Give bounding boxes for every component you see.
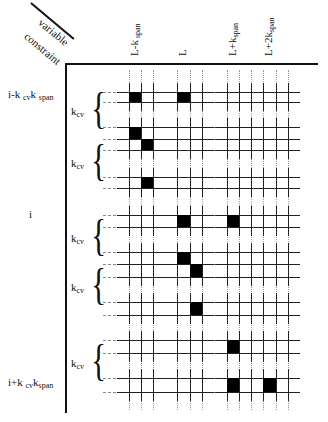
column-header-l-plus-2kspan: L+2kspan <box>262 17 276 56</box>
row-label-sub: span <box>39 381 54 390</box>
row-label-part: i+k <box>8 376 26 388</box>
filled-cell <box>263 378 276 392</box>
grid-line-vertical <box>239 206 240 236</box>
grid-line-vertical <box>190 83 191 111</box>
grid-line-vertical <box>141 206 142 236</box>
row-label-sub: span <box>39 93 54 102</box>
grid-line-vertical <box>227 293 228 324</box>
column-header-l-plus-kspan: L+kspan <box>226 23 240 56</box>
curly-brace: { <box>91 339 106 383</box>
column-header-base: L-k <box>128 40 140 56</box>
grid-line-vertical <box>239 168 240 197</box>
grid-line-vertical <box>288 243 289 286</box>
grid-line-vertical <box>153 369 154 401</box>
grid-line-vertical <box>276 331 277 362</box>
grid-line-vertical <box>153 118 154 159</box>
grid-line-vertical <box>276 369 277 401</box>
grid-line-vertical <box>251 331 252 362</box>
column-header-l-minus-kspan: L-k span <box>128 23 142 56</box>
grid-line-vertical <box>202 118 203 159</box>
grid-line-vertical <box>251 83 252 111</box>
column-header-sub: span <box>231 23 240 38</box>
grid-line-vertical <box>239 118 240 159</box>
grid-line-vertical <box>239 369 240 401</box>
grid-line-vertical <box>239 243 240 286</box>
filled-cell <box>227 215 239 227</box>
row-label-sub: cv <box>23 93 31 102</box>
grid-line-vertical <box>141 293 142 324</box>
column-header-sub: span <box>267 17 276 32</box>
grid-line-vertical <box>251 369 252 401</box>
grid-line-vertical <box>251 168 252 197</box>
grid-line-vertical <box>227 168 228 197</box>
grid-line-vertical <box>227 118 228 159</box>
grid-line-vertical <box>177 168 178 197</box>
row-label-i-minus: i-k cvk span <box>8 88 53 102</box>
grid-line-vertical <box>251 293 252 324</box>
grid-line-vertical <box>263 293 264 324</box>
grid-line-vertical <box>263 168 264 197</box>
filled-cell <box>227 378 239 392</box>
filled-cell <box>177 252 190 264</box>
grid-line-vertical <box>141 369 142 401</box>
grid-line-vertical <box>129 369 130 401</box>
grid-line-vertical <box>276 118 277 159</box>
top-axis-line <box>66 63 318 65</box>
grid-line-vertical <box>190 369 191 401</box>
filled-cell <box>129 92 141 102</box>
grid-line-vertical <box>202 331 203 362</box>
grid-line-vertical <box>129 331 130 362</box>
column-header-base: L+k <box>226 38 238 56</box>
grid-line-vertical <box>129 243 130 286</box>
grid-line-vertical <box>239 83 240 111</box>
grid-line-vertical <box>141 243 142 286</box>
grid-line-vertical <box>129 206 130 236</box>
filled-cell <box>177 215 190 227</box>
column-header-l: L <box>176 49 188 56</box>
filled-cell <box>227 340 239 353</box>
grid-line-vertical <box>263 206 264 236</box>
grid-line-vertical <box>288 331 289 362</box>
grid-line-vertical <box>288 83 289 111</box>
kcv-label: kcv <box>71 281 84 295</box>
row-label-i-plus: i+k cvkspan <box>8 376 53 390</box>
grid-line-vertical <box>288 293 289 324</box>
grid-line-vertical <box>288 206 289 236</box>
grid-line-vertical <box>239 331 240 362</box>
grid-line-vertical <box>190 206 191 236</box>
filled-cell <box>190 264 202 277</box>
grid-line-vertical <box>202 168 203 197</box>
column-header-sub: span <box>133 23 142 40</box>
filled-cell <box>141 177 153 188</box>
row-label-part: i-k <box>8 88 23 100</box>
grid-line-vertical <box>263 331 264 362</box>
grid-line-vertical <box>276 206 277 236</box>
grid-line-vertical <box>153 243 154 286</box>
grid-line-vertical <box>190 118 191 159</box>
grid-line-vertical <box>129 293 130 324</box>
grid-line-vertical <box>202 369 203 401</box>
grid-line-vertical <box>276 293 277 324</box>
filled-cell <box>190 302 202 315</box>
grid-line-vertical <box>202 206 203 236</box>
grid-line-vertical <box>153 331 154 362</box>
grid-line-vertical <box>276 83 277 111</box>
row-label-part: k <box>31 88 39 100</box>
left-axis-line <box>65 63 67 413</box>
grid-line-vertical <box>288 168 289 197</box>
grid-line-vertical <box>227 83 228 111</box>
grid-line-vertical <box>153 168 154 197</box>
grid-line-vertical <box>177 331 178 362</box>
row-label-i: i <box>29 208 32 220</box>
grid-line-vertical <box>227 243 228 286</box>
grid-line-vertical <box>251 206 252 236</box>
grid-line-vertical <box>263 118 264 159</box>
grid-line-vertical <box>239 293 240 324</box>
grid-line-vertical <box>190 168 191 197</box>
grid-line-vertical <box>202 293 203 324</box>
grid-line-vertical <box>177 293 178 324</box>
filled-cell <box>177 92 190 102</box>
filled-cell <box>129 127 141 139</box>
kcv-label: kcv <box>71 232 84 246</box>
column-header-base: L <box>176 49 188 56</box>
